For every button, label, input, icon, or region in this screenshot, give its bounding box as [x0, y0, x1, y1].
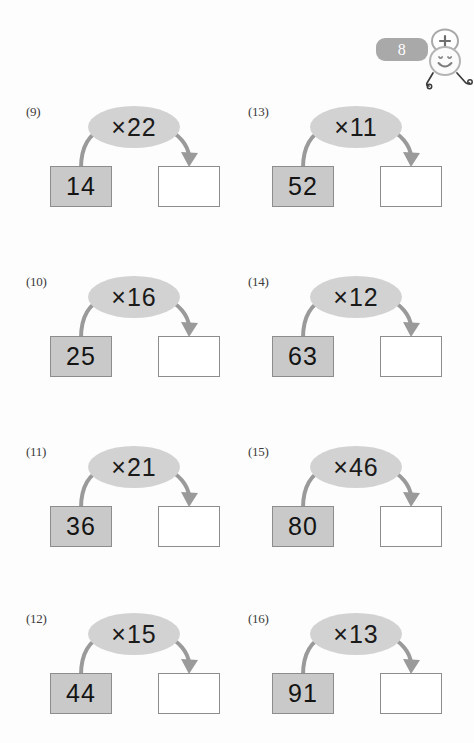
input-value-box: 36	[50, 506, 112, 547]
answer-input-box[interactable]	[380, 506, 442, 547]
input-value-box: 63	[272, 336, 334, 377]
operation-bubble: ×46	[310, 446, 402, 488]
arrow-head	[181, 659, 198, 674]
problem-11: (11)×2136	[22, 438, 240, 560]
operation-bubble: ×22	[88, 106, 180, 148]
problem-14: (14)×1263	[244, 268, 462, 390]
input-value-box: 44	[50, 673, 112, 714]
problem-15: (15)×4680	[244, 438, 462, 560]
arrow-head	[403, 659, 420, 674]
problem-10: (10)×1625	[22, 268, 240, 390]
decoration-mascot: 8	[368, 28, 474, 90]
smiley-face-character-icon	[420, 28, 474, 90]
problem-9: (9)×2214	[22, 98, 240, 220]
arrow-head	[181, 152, 198, 167]
arrow-head	[181, 322, 198, 337]
operation-bubble: ×15	[88, 613, 180, 655]
problem-13: (13)×1152	[244, 98, 462, 220]
answer-input-box[interactable]	[158, 506, 220, 547]
problem-16: (16)×1391	[244, 605, 462, 727]
arrow-head	[181, 492, 198, 507]
operation-bubble: ×13	[310, 613, 402, 655]
input-value-box: 52	[272, 166, 334, 207]
problem-12: (12)×1544	[22, 605, 240, 727]
input-value-box: 80	[272, 506, 334, 547]
answer-input-box[interactable]	[380, 336, 442, 377]
input-value-box: 14	[50, 166, 112, 207]
answer-input-box[interactable]	[158, 673, 220, 714]
answer-input-box[interactable]	[380, 673, 442, 714]
arrow-head	[403, 492, 420, 507]
input-value-box: 25	[50, 336, 112, 377]
operation-bubble: ×11	[310, 106, 402, 148]
arrow-head	[403, 152, 420, 167]
operation-bubble: ×12	[310, 276, 402, 318]
operation-bubble: ×21	[88, 446, 180, 488]
answer-input-box[interactable]	[158, 336, 220, 377]
answer-input-box[interactable]	[380, 166, 442, 207]
input-value-box: 91	[272, 673, 334, 714]
arrow-head	[403, 322, 420, 337]
answer-input-box[interactable]	[158, 166, 220, 207]
operation-bubble: ×16	[88, 276, 180, 318]
